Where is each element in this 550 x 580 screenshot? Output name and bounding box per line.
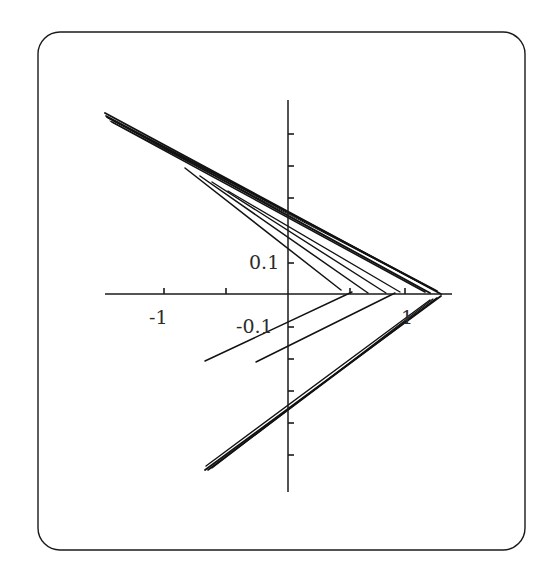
y-axis-tick-label-negative: -0.1 <box>236 317 273 336</box>
plot-frame-border <box>38 32 525 550</box>
curve-branch-10-steep-to-axis-d <box>228 191 400 292</box>
axes-group <box>105 100 452 492</box>
figure-container: 0.1 -0.1 -1 1 <box>0 0 550 580</box>
plot-canvas <box>0 0 550 580</box>
x-axis-tick-label-one: 1 <box>401 308 413 327</box>
curve-group <box>105 113 441 470</box>
curve-branch-8-steep-to-axis-b <box>200 176 368 293</box>
y-axis-tick-label-positive: 0.1 <box>249 253 279 272</box>
x-axis-tick-label-negative-one: -1 <box>149 308 168 327</box>
curve-branch-9-steep-to-axis-c <box>212 182 386 293</box>
